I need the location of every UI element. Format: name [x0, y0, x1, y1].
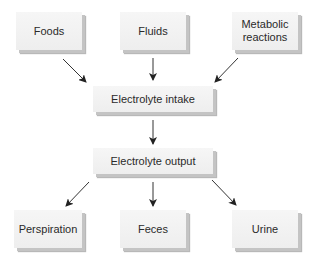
node-label: Electrolyte intake [111, 93, 195, 106]
node-label: Fluids [138, 25, 167, 38]
node-perspiration: Perspiration [14, 210, 82, 248]
node-metabolic-reactions: Metabolic reactions [232, 12, 298, 50]
node-label: Urine [252, 223, 278, 236]
node-label: Electrolyte output [111, 155, 196, 168]
node-label: Feces [138, 223, 168, 236]
arrow-metabolic-intake [215, 58, 238, 82]
node-fluids: Fluids [120, 12, 186, 50]
node-electrolyte-output: Electrolyte output [93, 148, 213, 174]
node-electrolyte-intake: Electrolyte intake [93, 86, 213, 112]
node-label: Metabolic reactions [237, 18, 293, 44]
node-urine: Urine [232, 210, 298, 248]
arrow-output-perspiration [66, 182, 89, 206]
arrow-foods-intake [63, 59, 86, 82]
arrow-output-urine [212, 180, 236, 205]
node-label: Perspiration [19, 223, 78, 236]
node-foods: Foods [16, 12, 82, 50]
node-label: Foods [34, 25, 65, 38]
node-feces: Feces [120, 210, 186, 248]
